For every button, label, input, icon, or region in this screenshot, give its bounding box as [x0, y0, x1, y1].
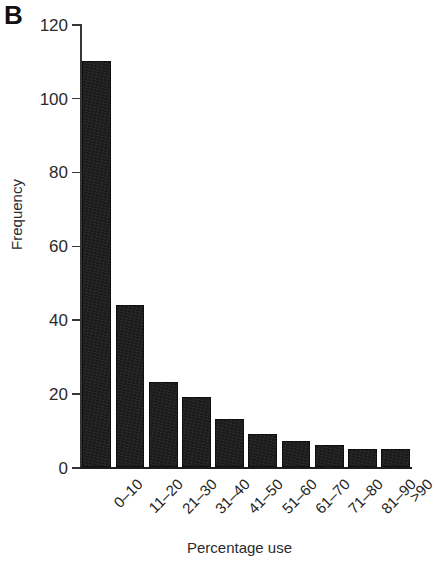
plot-area: 020406080100120 [80, 24, 412, 467]
y-tick-label: 80 [49, 164, 68, 181]
y-tick-mark: 80 [72, 172, 80, 174]
x-tick-label: 0–10 [110, 476, 144, 510]
y-tick-label: 60 [49, 238, 68, 255]
y-tick-label: 100 [40, 90, 68, 107]
y-axis-line [80, 24, 82, 467]
y-tick-label: 40 [49, 312, 68, 329]
x-tick-label: 21–30 [179, 476, 219, 516]
x-tick-label: 71–80 [345, 476, 385, 516]
y-tick-label: 120 [40, 16, 68, 33]
bar [381, 449, 410, 467]
y-tick-mark: 60 [72, 246, 80, 248]
x-tick-label: 31–40 [212, 476, 252, 516]
y-tick-mark: 0 [72, 467, 80, 469]
bar [215, 419, 244, 467]
y-tick-mark: 120 [72, 24, 80, 26]
bar [248, 434, 277, 467]
x-axis-line [80, 467, 412, 469]
x-tick-label: 51–60 [279, 476, 319, 516]
x-axis-tick-labels: 0–1011–2021–3031–4041–5051–6061–7071–808… [80, 476, 412, 536]
bar [348, 449, 377, 467]
bar [182, 397, 211, 467]
bar [282, 441, 311, 467]
x-tick-label: 61–70 [312, 476, 352, 516]
bar [82, 61, 111, 467]
x-axis-title: Percentage use [0, 539, 419, 556]
y-tick-label: 20 [49, 385, 68, 402]
y-tick-label: 0 [59, 459, 68, 476]
bar [315, 445, 344, 467]
y-tick-mark: 20 [72, 393, 80, 395]
y-tick-mark: 40 [72, 319, 80, 321]
bar [116, 305, 145, 467]
panel-label: B [4, 2, 23, 28]
x-tick-label: 11–20 [146, 476, 185, 515]
x-tick-label: 41–50 [246, 476, 286, 516]
bar [149, 382, 178, 467]
y-tick-mark: 100 [72, 98, 80, 100]
y-axis-title: Frequency [8, 170, 25, 260]
